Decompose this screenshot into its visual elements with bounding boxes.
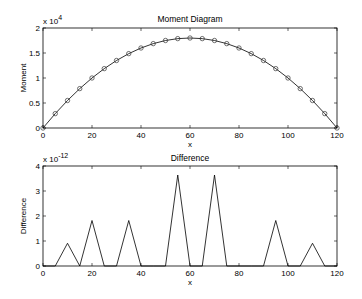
difference-plot-data <box>43 175 337 266</box>
difference-plot: Difference 02040608010012001234 x Differ… <box>19 152 344 287</box>
data-line <box>43 38 337 128</box>
y-tick-label: 0.5 <box>29 99 41 108</box>
moment-plot-ticks: 02040608010012000.511.52 <box>29 24 344 140</box>
difference-plot-ylabel: Difference <box>19 197 28 234</box>
x-tick-label: 40 <box>137 131 146 140</box>
moment-plot-y-multiplier: x 104 <box>43 14 62 26</box>
x-tick-label: 120 <box>330 269 344 278</box>
difference-plot-y-multiplier: x 10-12 <box>43 152 68 164</box>
y-tick-label: 2 <box>36 24 41 33</box>
moment-plot-data <box>41 36 339 130</box>
x-tick-label: 80 <box>235 131 244 140</box>
x-tick-label: 40 <box>137 269 146 278</box>
y-tick-label: 0 <box>36 262 41 271</box>
y-tick-label: 1 <box>36 74 41 83</box>
y-tick-label: 1 <box>36 237 41 246</box>
moment-plot-xlabel: x <box>188 140 192 149</box>
moment-plot-axes-frame <box>43 28 337 128</box>
figure: Moment Diagram 02040608010012000.511.52 … <box>0 0 362 299</box>
y-tick-label: 1.5 <box>29 49 41 58</box>
difference-plot-xlabel: x <box>188 278 192 287</box>
y-tick-label: 3 <box>36 187 41 196</box>
data-line <box>43 175 337 266</box>
x-tick-label: 0 <box>41 269 46 278</box>
moment-diagram-plot: Moment Diagram 02040608010012000.511.52 … <box>19 14 344 149</box>
x-tick-label: 60 <box>186 269 195 278</box>
difference-plot-title: Difference <box>171 153 210 163</box>
x-tick-label: 100 <box>281 269 295 278</box>
moment-plot-title: Moment Diagram <box>157 14 222 24</box>
x-tick-label: 120 <box>330 131 344 140</box>
moment-plot-ylabel: Moment <box>19 63 28 93</box>
difference-plot-axes-frame <box>43 166 337 266</box>
x-tick-label: 100 <box>281 131 295 140</box>
x-tick-label: 0 <box>41 131 46 140</box>
y-tick-label: 0 <box>36 124 41 133</box>
x-tick-label: 20 <box>88 131 97 140</box>
x-tick-label: 80 <box>235 269 244 278</box>
difference-plot-ticks: 02040608010012001234 <box>36 162 345 278</box>
x-tick-label: 20 <box>88 269 97 278</box>
y-tick-label: 2 <box>36 212 41 221</box>
x-tick-label: 60 <box>186 131 195 140</box>
y-tick-label: 4 <box>36 162 41 171</box>
